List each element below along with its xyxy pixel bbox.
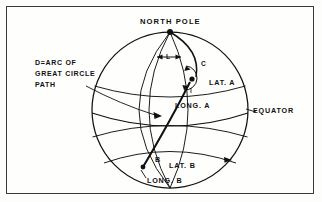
point-a-marker — [189, 76, 194, 81]
label-legend-line2: GREAT CIRCLE — [35, 69, 95, 80]
label-long-b: LONG. B — [147, 177, 183, 185]
label-lat-b: LAT. B — [169, 162, 196, 170]
great-circle-diagram — [0, 0, 322, 202]
legend-leader-line — [86, 86, 155, 115]
label-long-a: LONG. A — [175, 102, 210, 110]
label-equator: EQUATOR — [253, 107, 294, 115]
label-point-b: B — [155, 156, 161, 164]
label-dist-l: L — [166, 53, 171, 61]
parallel-lat-a — [95, 86, 246, 97]
long-b-leader-tick — [141, 170, 146, 178]
label-lat-a: LAT. A — [209, 79, 235, 87]
arrowhead-legend-leader — [154, 112, 163, 119]
label-north-pole: NORTH POLE — [140, 18, 201, 27]
parallel-mid-lower — [93, 126, 248, 138]
point-b-marker — [141, 165, 146, 170]
figure-root: NORTH POLE D=ARC OF GREAT CIRCLE PATH L … — [0, 0, 322, 202]
north-pole-marker — [167, 29, 173, 35]
label-legend-line1: D=ARC OF — [35, 58, 77, 69]
label-legend-line3: PATH — [35, 80, 56, 91]
label-course-c: C — [201, 60, 206, 68]
